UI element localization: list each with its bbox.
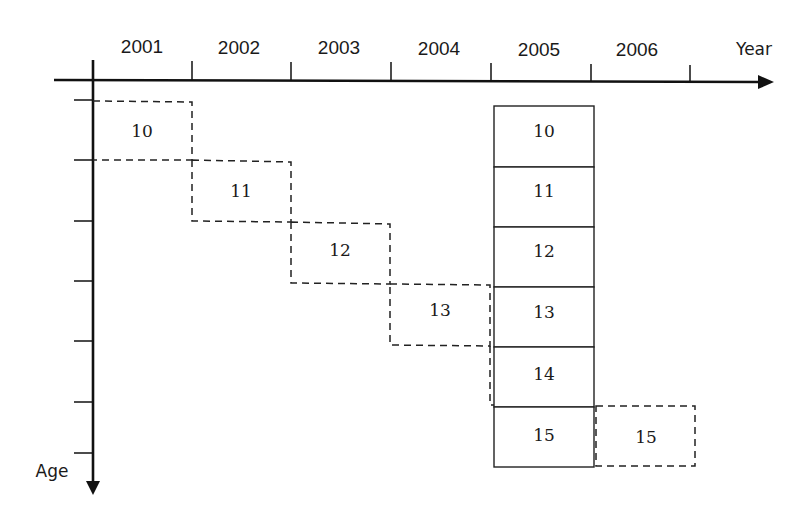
year-axis-label: Year xyxy=(735,39,772,59)
cohort-path xyxy=(93,101,695,466)
age-axis-label: Age xyxy=(36,461,69,481)
age-axis: Age xyxy=(36,60,100,495)
cross-section-age: 14 xyxy=(533,364,555,384)
cross-section-age: 15 xyxy=(533,425,555,445)
year-tick-label: 2005 xyxy=(518,39,560,60)
year-tick-label: 2006 xyxy=(616,39,658,60)
cross-section-column xyxy=(494,106,594,467)
diagram-canvas: 2001 2002 2003 2004 2005 2006 Year Age xyxy=(0,0,810,518)
cohort-cell-age: 13 xyxy=(429,300,451,320)
cross-section-age: 11 xyxy=(533,181,555,201)
age-axis-arrow-icon xyxy=(86,481,100,495)
year-tick-label: 2003 xyxy=(318,37,360,58)
year-tick-label: 2002 xyxy=(218,37,260,58)
cross-section-age: 12 xyxy=(533,241,555,261)
year-axis: 2001 2002 2003 2004 2005 2006 Year xyxy=(54,36,774,89)
year-axis-arrow-icon xyxy=(758,75,774,89)
year-tick-label: 2004 xyxy=(418,38,461,59)
lexis-diagram: 2001 2002 2003 2004 2005 2006 Year Age xyxy=(0,0,810,518)
cross-section-age: 10 xyxy=(533,121,555,141)
year-tick-label: 2001 xyxy=(121,36,163,57)
cohort-cell-age: 10 xyxy=(131,121,153,141)
cohort-cell-age: 11 xyxy=(230,181,252,201)
cohort-cell-age: 15 xyxy=(635,427,657,447)
cross-section-age: 13 xyxy=(533,302,555,322)
cohort-cell-age: 12 xyxy=(329,240,351,260)
